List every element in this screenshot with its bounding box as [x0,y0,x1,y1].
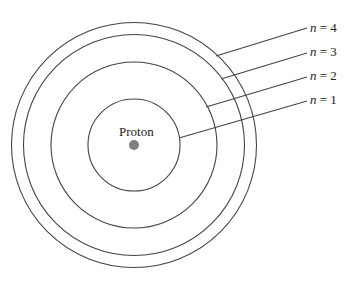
equals-sign: = [317,92,331,107]
equals-sign: = [317,68,331,83]
orbit-number: 3 [330,44,337,59]
equals-sign: = [317,20,331,35]
orbit-label-n1: n = 1 [310,92,337,108]
orbit-label-n2: n = 2 [310,68,337,84]
orbit-number: 2 [330,68,337,83]
leader-line-n4 [216,28,307,56]
leader-line-n1 [179,101,307,138]
leader-line-n3 [221,53,307,79]
orbit-label-n4: n = 4 [310,20,337,36]
proton-label: Proton [119,124,154,140]
orbit-graphics [0,0,352,281]
orbit-number: 4 [330,20,337,35]
bohr-model-diagram: Proton n = 4 n = 3 n = 2 n = 1 [0,0,352,281]
proton-dot [129,140,139,150]
orbit-label-n3: n = 3 [310,44,337,60]
orbit-number: 1 [330,92,337,107]
leader-line-n2 [206,77,307,107]
equals-sign: = [317,44,331,59]
